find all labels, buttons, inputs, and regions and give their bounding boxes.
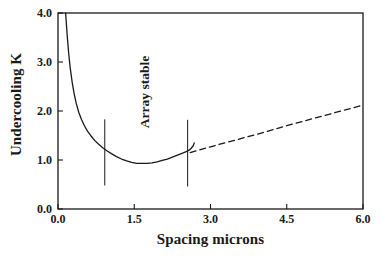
y-tick-label: 2.0 <box>37 104 52 118</box>
x-tick-label: 0.0 <box>51 212 66 226</box>
x-tick-label: 3.0 <box>203 212 218 226</box>
chart-plot-area: 0.01.53.04.56.0 0.01.02.03.04.0 <box>0 0 381 256</box>
y-tick-label: 3.0 <box>37 55 52 69</box>
x-tick-label: 6.0 <box>356 212 371 226</box>
x-tick-label: 4.5 <box>279 212 294 226</box>
chart-figure: 0.01.53.04.56.0 0.01.02.03.04.0 Undercoo… <box>0 0 381 256</box>
y-tick-label: 4.0 <box>37 6 52 20</box>
y-tick-label: 0.0 <box>37 202 52 216</box>
y-tick-label: 1.0 <box>37 153 52 167</box>
x-tick-label: 1.5 <box>127 212 142 226</box>
